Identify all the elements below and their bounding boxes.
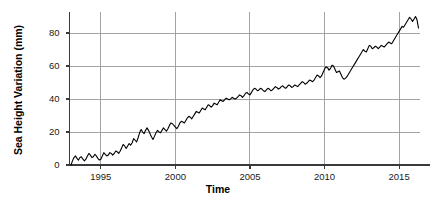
y-tick-label: 40: [36, 93, 60, 104]
y-tick-label: 0: [36, 159, 60, 170]
x-tick-label: 1995: [81, 171, 121, 182]
x-tick-label: 2015: [379, 171, 419, 182]
x-tick-label: 2010: [305, 171, 345, 182]
data-line-sea-height-variation: [71, 17, 419, 166]
x-tick-label: 2000: [155, 171, 195, 182]
y-tick-label: 20: [36, 126, 60, 137]
sea-level-chart: Sea Height Variation (mm) 020406080 1995…: [0, 0, 436, 207]
x-tick-label: 2005: [230, 171, 270, 182]
plot-area: [0, 0, 436, 207]
vertical-gridlines: [101, 12, 399, 165]
horizontal-gridlines: [70, 33, 421, 165]
y-tick-label: 80: [36, 27, 60, 38]
y-tick-label: 60: [36, 60, 60, 71]
x-axis-label: Time: [0, 183, 436, 195]
axis-ticks: [66, 33, 400, 169]
